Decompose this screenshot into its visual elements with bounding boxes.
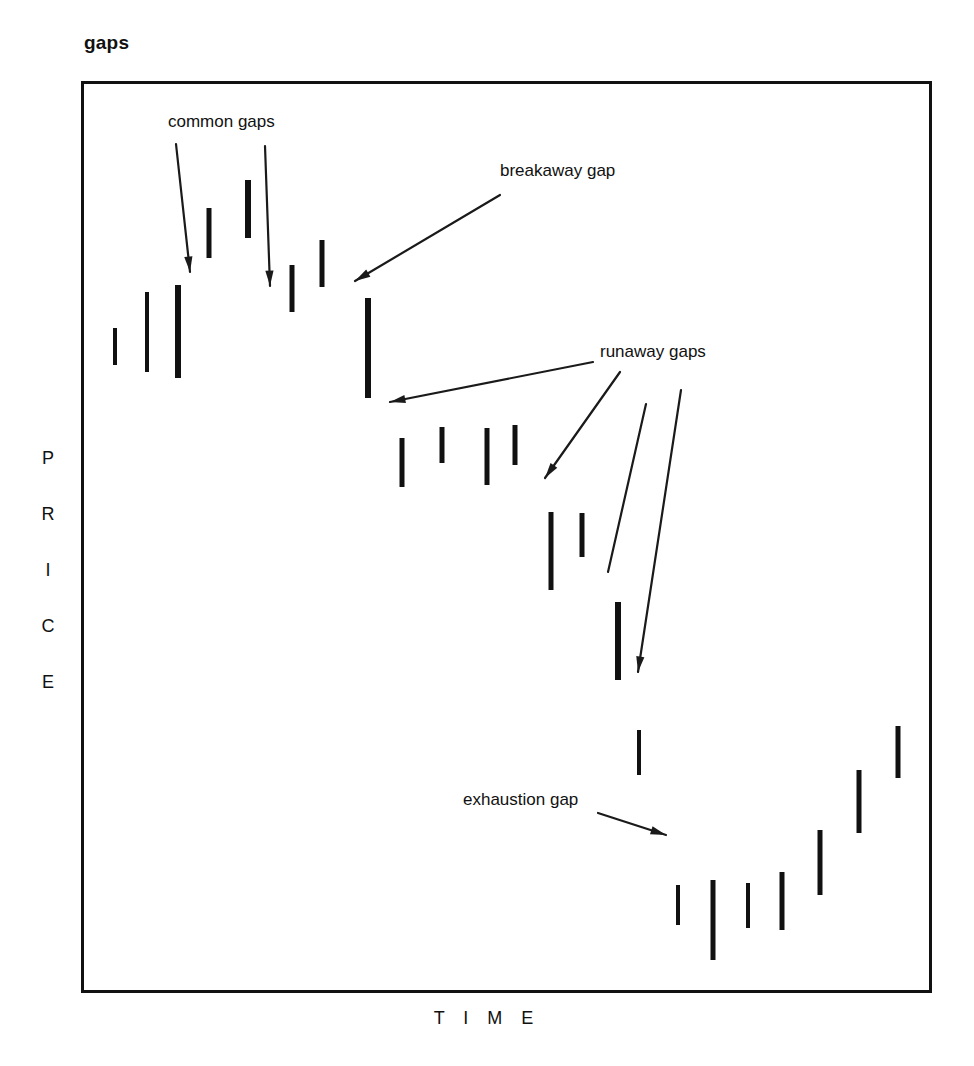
- chart-title: gaps: [84, 32, 129, 54]
- annotation-label-runaway-gaps: runaway gaps: [600, 342, 706, 362]
- y-axis-letter-2: I: [34, 542, 62, 598]
- annotation-label-breakaway-gap: breakaway gap: [500, 161, 615, 181]
- y-axis-letter-4: E: [34, 654, 62, 710]
- gaps-chart-figure: gaps PRICE T I M E common gapsbreakaway …: [0, 0, 974, 1066]
- plot-area-frame: [81, 81, 932, 993]
- y-axis-label-price: PRICE: [34, 430, 62, 710]
- x-axis-label-time: T I M E: [0, 1008, 974, 1029]
- y-axis-letter-0: P: [34, 430, 62, 486]
- annotation-label-common-gaps: common gaps: [168, 112, 275, 132]
- y-axis-letter-3: C: [34, 598, 62, 654]
- y-axis-letter-1: R: [34, 486, 62, 542]
- annotation-label-exhaustion-gap: exhaustion gap: [463, 790, 578, 810]
